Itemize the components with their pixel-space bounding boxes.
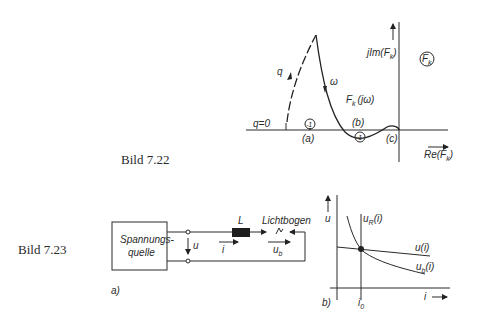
- source-label-line1: Spannungs-: [120, 234, 175, 245]
- u-axis-label: u: [325, 213, 331, 224]
- part-a-label: a): [111, 285, 120, 296]
- terminal-bottom: [186, 259, 190, 263]
- point-b-label: (b): [352, 117, 364, 128]
- current-i-label: i: [222, 244, 225, 255]
- u-curve-label: u(i): [415, 242, 429, 253]
- ub-curve: [347, 216, 425, 274]
- operating-point: [358, 246, 364, 252]
- figure-7-22: Bild 7.22 jIm(Fk) Re(Fk) Fk q q=0 ω F: [121, 22, 453, 167]
- arc-symbol-icon: [276, 228, 283, 234]
- q-label: q: [277, 66, 283, 77]
- curve-label: Fk(jω): [346, 94, 374, 107]
- voltage-source-box: [112, 222, 167, 270]
- point-a-label: (a): [302, 133, 314, 144]
- inductor-label: L: [238, 215, 244, 226]
- part-b-label: b): [322, 297, 331, 308]
- omega-label: ω: [330, 76, 338, 87]
- arc-label: Lichtbogen: [262, 215, 311, 226]
- minus-one-b: -1: [356, 134, 362, 141]
- inductor: [232, 228, 250, 237]
- arc-voltage-label: ub: [273, 244, 283, 257]
- point-a-dot: [309, 128, 311, 130]
- figure-canvas: Bild 7.22 jIm(Fk) Re(Fk) Fk q q=0 ω F: [0, 0, 479, 325]
- voltage-u-label: u: [193, 240, 199, 251]
- im-axis-label: jIm(Fk): [365, 47, 397, 60]
- re-axis-label: Re(Fk): [424, 149, 453, 162]
- caption-7-22: Bild 7.22: [121, 152, 169, 167]
- minus-one-a: -1: [306, 121, 312, 128]
- ur-curve-label: uR(i): [363, 213, 383, 226]
- figure-7-23: Bild 7.23 Spannungs- quelle u L Lichtbog…: [18, 195, 450, 310]
- point-c-label: (c): [386, 133, 398, 144]
- caption-7-23: Bild 7.23: [18, 242, 66, 257]
- q-zero-label: q=0: [253, 118, 270, 129]
- terminal-top: [186, 230, 190, 234]
- plane-label: Fk: [422, 53, 432, 66]
- q-direction-arrow-icon: [287, 72, 292, 80]
- source-label-line2: quelle: [128, 247, 155, 258]
- i-axis-label: i: [424, 291, 427, 302]
